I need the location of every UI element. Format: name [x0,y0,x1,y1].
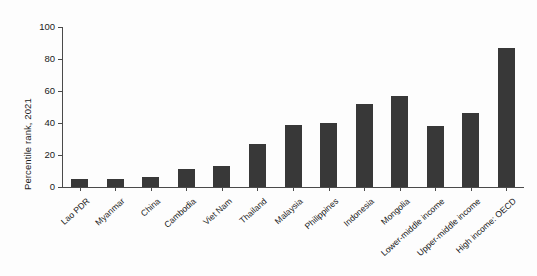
x-tick-mark [506,187,507,191]
y-tick-label: 0 [50,181,55,192]
x-axis-label: Cambodia [162,196,198,230]
bar [427,126,444,187]
x-tick-mark [257,187,258,191]
y-tick-label: 80 [44,53,55,64]
x-axis-label: Indonesia [341,196,375,228]
bar [320,123,337,187]
bar [107,179,124,187]
x-tick-mark [471,187,472,191]
y-axis-line [62,27,63,187]
x-axis-label: High income: OECD [454,196,518,255]
bar-chart: Percentile rank, 2021 020406080100 Lao P… [0,0,537,276]
bar [391,96,408,187]
y-tick-label: 40 [44,117,55,128]
bar [285,125,302,187]
y-tick-mark [58,155,62,156]
x-tick-mark [329,187,330,191]
x-axis-label: Mongolia [379,196,412,227]
y-tick-label: 60 [44,85,55,96]
x-tick-mark [186,187,187,191]
x-axis-label: Upper-middle income [415,196,482,258]
bar [71,179,88,187]
x-axis-label: Lower-middle income [379,196,446,258]
y-tick-mark [58,123,62,124]
x-axis-label: China [139,196,162,218]
x-tick-mark [435,187,436,191]
x-axis-label: Lao PDR [59,196,92,227]
x-axis-label: Philippines [303,196,341,231]
y-tick-mark [58,187,62,188]
x-tick-mark [400,187,401,191]
y-tick-mark [58,27,62,28]
bar [142,177,159,187]
x-tick-mark [151,187,152,191]
x-tick-mark [364,187,365,191]
y-tick-label: 100 [39,21,55,32]
x-tick-mark [293,187,294,191]
x-axis-label: Viet Nam [201,196,234,227]
x-tick-mark [115,187,116,191]
x-axis-label: Malaysia [273,196,305,226]
y-axis-title: Percentile rank, 2021 [22,0,36,190]
plot-area: 020406080100 [62,27,524,187]
bar [498,48,515,187]
x-tick-mark [222,187,223,191]
x-axis-label: Myanmar [94,196,127,227]
bar [462,113,479,187]
y-tick-mark [58,59,62,60]
bar [178,169,195,187]
y-tick-mark [58,91,62,92]
bar [356,104,373,187]
y-tick-label: 20 [44,149,55,160]
x-tick-mark [80,187,81,191]
bar [249,144,266,187]
x-axis-label: Thailand [238,196,269,225]
bar [213,166,230,187]
